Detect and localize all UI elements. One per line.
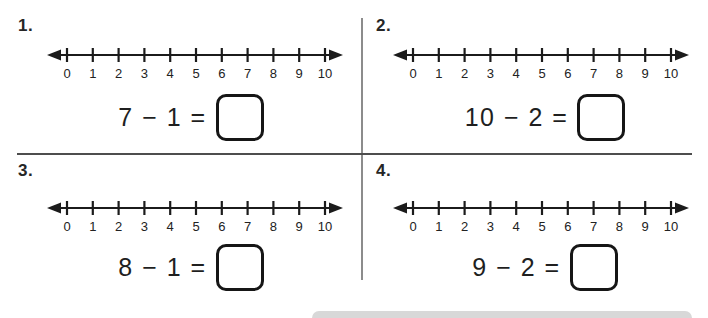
problem-number: 2.	[376, 16, 391, 36]
vertical-divider	[361, 18, 363, 280]
svg-text:3: 3	[487, 66, 494, 81]
svg-text:10: 10	[318, 219, 332, 234]
horizontal-divider	[17, 153, 692, 155]
svg-text:2: 2	[115, 219, 122, 234]
svg-text:10: 10	[664, 219, 678, 234]
svg-text:5: 5	[192, 219, 199, 234]
problem-1: 1. 012345678910 7 − 1 =	[0, 0, 362, 155]
problem-4: 4. 012345678910 9 − 2 =	[362, 155, 708, 317]
equation-text: 8 − 1 =	[118, 253, 206, 282]
svg-text:9: 9	[296, 66, 303, 81]
number-line: 012345678910	[47, 45, 343, 81]
svg-text:9: 9	[642, 219, 649, 234]
svg-text:2: 2	[115, 66, 122, 81]
svg-text:4: 4	[513, 219, 520, 234]
answer-box[interactable]	[216, 244, 264, 291]
answer-box[interactable]	[577, 94, 625, 141]
svg-text:7: 7	[244, 66, 251, 81]
svg-text:8: 8	[270, 219, 277, 234]
svg-text:6: 6	[218, 66, 225, 81]
equation: 8 − 1 =	[10, 243, 372, 291]
svg-text:4: 4	[513, 66, 520, 81]
number-line: 012345678910	[393, 45, 689, 81]
problem-number: 1.	[18, 16, 33, 36]
svg-text:0: 0	[63, 66, 70, 81]
equation: 10 − 2 =	[372, 93, 708, 141]
svg-text:5: 5	[192, 66, 199, 81]
svg-text:0: 0	[63, 219, 70, 234]
equation: 7 − 1 =	[10, 93, 372, 141]
svg-text:9: 9	[642, 66, 649, 81]
svg-text:8: 8	[616, 219, 623, 234]
svg-text:8: 8	[270, 66, 277, 81]
svg-text:10: 10	[318, 66, 332, 81]
svg-text:1: 1	[89, 219, 96, 234]
problem-number: 3.	[18, 161, 33, 181]
svg-text:8: 8	[616, 66, 623, 81]
svg-text:1: 1	[435, 66, 442, 81]
svg-text:7: 7	[590, 219, 597, 234]
svg-text:0: 0	[409, 219, 416, 234]
equation-text: 7 − 1 =	[118, 103, 206, 132]
svg-text:9: 9	[296, 219, 303, 234]
svg-text:2: 2	[461, 219, 468, 234]
svg-text:3: 3	[487, 219, 494, 234]
svg-text:5: 5	[538, 219, 545, 234]
number-line: 012345678910	[47, 198, 343, 234]
answer-box[interactable]	[570, 244, 618, 291]
number-line: 012345678910	[393, 198, 689, 234]
equation-text: 10 − 2 =	[465, 103, 569, 132]
svg-text:3: 3	[141, 66, 148, 81]
svg-text:4: 4	[167, 219, 174, 234]
svg-text:3: 3	[141, 219, 148, 234]
svg-text:1: 1	[89, 66, 96, 81]
svg-text:7: 7	[590, 66, 597, 81]
problem-2: 2. 012345678910 10 − 2 =	[362, 0, 708, 155]
svg-text:2: 2	[461, 66, 468, 81]
svg-text:5: 5	[538, 66, 545, 81]
svg-text:6: 6	[218, 219, 225, 234]
svg-text:4: 4	[167, 66, 174, 81]
svg-text:10: 10	[664, 66, 678, 81]
svg-text:7: 7	[244, 219, 251, 234]
svg-text:1: 1	[435, 219, 442, 234]
equation: 9 − 2 =	[372, 243, 708, 291]
svg-text:6: 6	[564, 66, 571, 81]
equation-text: 9 − 2 =	[472, 253, 560, 282]
answer-box[interactable]	[216, 94, 264, 141]
problem-3: 3. 012345678910 8 − 1 =	[0, 155, 362, 317]
bottom-shadow-band	[312, 311, 692, 318]
svg-text:6: 6	[564, 219, 571, 234]
problem-number: 4.	[376, 161, 391, 181]
svg-text:0: 0	[409, 66, 416, 81]
